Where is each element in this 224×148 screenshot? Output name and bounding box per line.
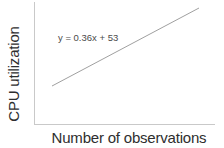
trend-line (52, 8, 199, 86)
chart-figure: y = 0.36x + 53 CPU utilization Number of… (0, 0, 224, 148)
regression-equation-label: y = 0.36x + 53 (58, 32, 118, 43)
chart-svg: y = 0.36x + 53 (0, 0, 224, 148)
plot-area: y = 0.36x + 53 (0, 0, 224, 148)
x-axis-label: Number of observations (34, 130, 224, 148)
y-axis-label: CPU utilization (0, 0, 26, 148)
